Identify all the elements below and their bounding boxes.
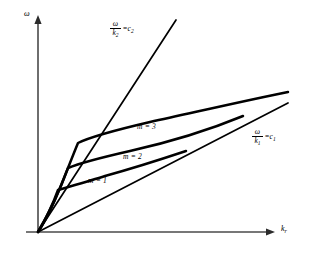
asymptote-c1-label: ω k1 =c1 [252,128,276,146]
equals-c2: =c2 [123,25,134,34]
equals-sign-c: =c [265,132,273,141]
fraction-denominator: k2 [110,29,120,38]
x-axis-label-sub: r [285,228,287,234]
mode-label-m3: m = 3 [137,123,156,131]
denominator-sub: 1 [258,139,261,145]
equals-c1: =c1 [265,133,276,142]
fraction-denominator: k1 [252,137,262,146]
asymptote-c2-label: ω k2 =c2 [110,20,134,38]
mode-label-m2: m = 2 [123,153,142,161]
equals-sub: 2 [131,27,134,33]
x-axis [26,228,275,235]
equals-sign-c: =c [123,24,131,33]
asymptote-c1-line [38,103,288,232]
x-axis-label: kr [281,225,287,234]
dispersion-diagram-figure: ω kr ω k2 =c2 ω k1 =c1 m = 3 m = 2 m = 1 [0,0,319,261]
fraction-numerator: ω [253,128,262,136]
equals-sub: 1 [273,135,276,141]
y-axis [34,15,41,232]
fraction-numerator: ω [111,20,120,28]
fraction-omega-over-k2: ω k2 [110,20,121,38]
mode-label-m1: m = 1 [88,177,107,185]
y-axis-label: ω [24,10,30,18]
denominator-sub: 2 [116,31,119,37]
fraction-omega-over-k1: ω k1 [252,128,263,146]
mode-curve-m2 [38,116,243,232]
mode-curve-m3 [38,92,288,232]
